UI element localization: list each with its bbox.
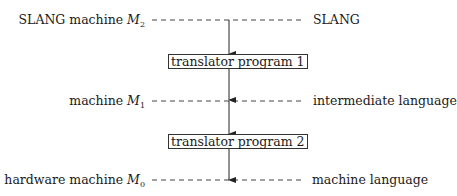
- language-label-machine: machine language: [312, 173, 428, 187]
- machine-label-m0: hardware machine M0: [4, 173, 145, 192]
- language-label-intermediate: intermediate language: [313, 94, 457, 108]
- language-label-slang: SLANG: [313, 13, 360, 27]
- machine-label-m2: SLANG machine M2: [19, 13, 145, 32]
- translator-program-2-box: translator program 2: [168, 134, 308, 149]
- translator-program-1-box: translator program 1: [168, 54, 308, 69]
- machine-symbol: M1: [127, 93, 145, 108]
- machine-symbol: M0: [127, 172, 145, 187]
- machine-label-m1: machine M1: [69, 94, 145, 113]
- machine-symbol: M2: [127, 12, 145, 27]
